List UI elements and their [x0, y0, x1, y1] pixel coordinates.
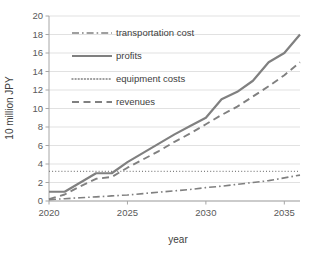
y-axis-tick-label: 0	[38, 195, 43, 206]
y-axis-tick-labels: 02468101214161820	[32, 10, 43, 206]
y-axis-tick-label: 10	[32, 103, 43, 114]
x-axis-tick-label: 2025	[117, 207, 138, 218]
gridlines	[49, 16, 300, 201]
y-axis-title: 10 million JPY	[4, 76, 15, 140]
y-axis-tick-label: 14	[32, 66, 43, 77]
x-axis-tick-label: 2020	[38, 207, 59, 218]
y-axis-tick-label: 18	[32, 29, 43, 40]
chart-canvas: 02468101214161820 2020202520302035 trans…	[0, 0, 315, 265]
y-axis-tick-label: 16	[32, 47, 43, 58]
x-axis-tick-label: 2030	[195, 207, 216, 218]
y-axis-tick-label: 12	[32, 84, 43, 95]
y-axis-tick-label: 8	[38, 121, 43, 132]
legend-label-profits: profits	[116, 50, 142, 61]
x-axis-tick-label: 2035	[274, 207, 295, 218]
y-axis-tick-label: 20	[32, 10, 43, 21]
series-lines	[49, 35, 300, 200]
x-axis-title: year	[168, 234, 188, 245]
legend-label-transportation-cost: transportation cost	[116, 27, 195, 38]
y-axis-tick-label: 4	[38, 158, 43, 169]
line-chart: 02468101214161820 2020202520302035 trans…	[0, 0, 315, 265]
series-line-profits	[49, 35, 300, 192]
axes	[46, 16, 301, 205]
legend-label-equipment-costs: equipment costs	[116, 73, 185, 84]
legend-label-revenues: revenues	[116, 96, 155, 107]
x-axis-tick-labels: 2020202520302035	[38, 207, 294, 218]
chart-legend: transportation costprofitsequipment cost…	[72, 27, 195, 107]
y-axis-tick-label: 2	[38, 177, 43, 188]
y-axis-tick-label: 6	[38, 140, 43, 151]
